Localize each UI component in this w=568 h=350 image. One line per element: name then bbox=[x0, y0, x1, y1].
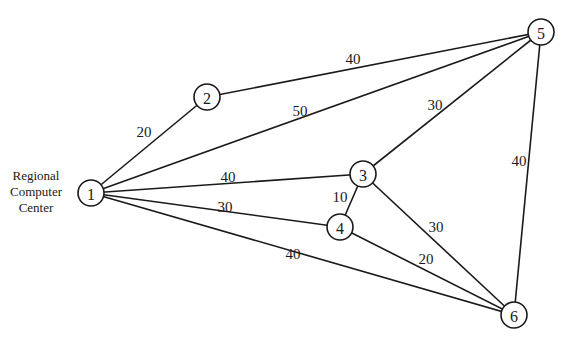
node-label-3: 3 bbox=[359, 167, 367, 184]
node-1: 1 bbox=[78, 180, 104, 206]
node-5: 5 bbox=[528, 19, 554, 45]
edge-weight-3-6: 30 bbox=[429, 219, 444, 235]
node-label-4: 4 bbox=[336, 220, 344, 237]
edge-weight-1-3: 40 bbox=[221, 169, 236, 185]
edge-2-5 bbox=[207, 32, 541, 97]
node-3: 3 bbox=[350, 161, 376, 187]
edge-weight-3-5: 30 bbox=[428, 97, 443, 113]
edge-weight-5-6: 40 bbox=[512, 153, 527, 169]
edge-1-5 bbox=[91, 32, 541, 193]
node-label-2: 2 bbox=[203, 90, 211, 107]
node-2: 2 bbox=[194, 84, 220, 110]
edge-weight-4-6: 20 bbox=[419, 251, 434, 267]
edge-1-4 bbox=[91, 193, 340, 227]
edge-weight-1-5: 50 bbox=[293, 103, 308, 119]
edge-5-6 bbox=[514, 32, 541, 315]
edge-weight-3-4: 10 bbox=[333, 189, 348, 205]
edges-layer bbox=[91, 32, 541, 315]
node-4: 4 bbox=[327, 214, 353, 240]
edge-weight-1-4: 30 bbox=[218, 199, 233, 215]
edge-1-2 bbox=[91, 97, 207, 193]
node-label-1: 1 bbox=[87, 186, 95, 203]
node-6: 6 bbox=[501, 302, 527, 328]
edge-4-6 bbox=[340, 227, 514, 315]
nodes-layer: 123456 bbox=[78, 19, 554, 328]
edge-weight-2-5: 40 bbox=[346, 51, 361, 67]
network-graph: 2040503040401030302040 123456 bbox=[0, 0, 568, 350]
edge-weight-1-6: 40 bbox=[286, 246, 301, 262]
edge-weight-1-2: 20 bbox=[137, 124, 152, 140]
node-label-6: 6 bbox=[510, 308, 518, 325]
node-label-5: 5 bbox=[537, 25, 545, 42]
edge-1-6 bbox=[91, 193, 514, 315]
